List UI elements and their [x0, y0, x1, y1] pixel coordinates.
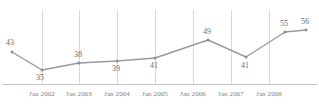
- x-axis-tick-label: Jan 2008: [256, 91, 282, 98]
- data-point-label: 39: [112, 65, 120, 73]
- data-point-marker: [305, 29, 308, 32]
- data-point-label: 35: [36, 74, 44, 82]
- x-axis-tick-label: Jan 2004: [104, 91, 130, 98]
- line-chart: 433538394149415556 Jan 2002Jan 2003Jan 2…: [0, 0, 319, 108]
- data-point-marker: [154, 57, 157, 60]
- data-series-line: [12, 30, 306, 70]
- x-axis-tick-label: Jan 2002: [29, 91, 55, 98]
- x-axis-tick-label: Jan 2007: [218, 91, 244, 98]
- series-polyline: [12, 30, 306, 70]
- x-axis-tick-label: Jan 2003: [66, 91, 92, 98]
- data-point-marker: [11, 51, 14, 54]
- data-point-marker: [284, 31, 287, 34]
- data-point-label: 41: [150, 62, 158, 70]
- data-point-marker: [78, 62, 81, 65]
- data-point-label: 41: [241, 62, 249, 70]
- data-point-marker: [245, 56, 248, 59]
- x-axis-tick-label: Jan 2006: [180, 91, 206, 98]
- data-point-marker: [207, 39, 210, 42]
- data-point-label: 38: [74, 51, 82, 59]
- data-point-label: 43: [6, 39, 14, 47]
- data-point-label: 56: [301, 18, 309, 26]
- data-point-label: 55: [280, 20, 288, 28]
- gridlines: [43, 10, 270, 84]
- data-point-marker: [41, 69, 44, 72]
- data-point-markers: [11, 29, 308, 72]
- x-axis-tick-label: Jan 2005: [142, 91, 168, 98]
- data-point-label: 49: [203, 28, 211, 36]
- data-point-marker: [116, 60, 119, 63]
